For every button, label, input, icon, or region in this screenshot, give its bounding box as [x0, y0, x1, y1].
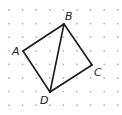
grid-dot: [90, 36, 92, 38]
grid-dot: [35, 9, 37, 11]
grid-dot: [90, 50, 92, 52]
grid-dot: [8, 104, 10, 106]
grid-dot: [63, 77, 65, 79]
grid-dot: [22, 104, 24, 106]
grid-dot: [117, 36, 119, 38]
grid-dot: [49, 36, 51, 38]
grid-dot: [103, 91, 105, 93]
grid-dot: [103, 64, 105, 66]
vertex-label-a: A: [11, 45, 20, 58]
grid-dot: [117, 50, 119, 52]
quadrilateral-diagram: A B C D: [0, 0, 122, 115]
grid-dot: [8, 36, 10, 38]
grid-dot: [35, 23, 37, 25]
grid-dot: [63, 64, 65, 66]
grid-dot: [49, 23, 51, 25]
grid-dot: [103, 9, 105, 11]
grid-dot: [90, 104, 92, 106]
vertex-label-c: C: [94, 66, 102, 79]
segment-cd: [50, 65, 92, 92]
grid-dot: [76, 36, 78, 38]
grid-dot: [117, 104, 119, 106]
grid-dot: [35, 91, 37, 93]
grid-dot: [76, 50, 78, 52]
segment-ab: [23, 24, 64, 51]
grid-dot: [76, 104, 78, 106]
segment-da: [23, 51, 50, 92]
grid-dot: [76, 23, 78, 25]
grid-dot: [49, 77, 51, 79]
grid-dot: [90, 23, 92, 25]
grid-dot: [103, 104, 105, 106]
grid-dot: [8, 64, 10, 66]
grid-dot: [103, 23, 105, 25]
grid-dot: [103, 36, 105, 38]
segment-bc: [64, 24, 92, 65]
segment-bd: [50, 24, 64, 92]
grid-dot: [22, 91, 24, 93]
grid-dot: [49, 104, 51, 106]
grid-dot: [8, 9, 10, 11]
grid-dot: [22, 9, 24, 11]
grid-dot: [90, 77, 92, 79]
grid-dot: [35, 50, 37, 52]
grid-dot: [22, 64, 24, 66]
grid-dot: [22, 23, 24, 25]
quadrilateral-edges: [23, 24, 92, 92]
grid-dot: [76, 77, 78, 79]
grid-dot: [63, 36, 65, 38]
grid-dot: [22, 36, 24, 38]
grid-dot: [8, 91, 10, 93]
vertex-label-d: D: [40, 94, 48, 107]
grid-dot: [117, 9, 119, 11]
grid-dot: [103, 77, 105, 79]
grid-dot: [35, 36, 37, 38]
grid-dot: [35, 77, 37, 79]
grid-dot: [63, 50, 65, 52]
grid-dot: [117, 77, 119, 79]
grid-dot: [63, 104, 65, 106]
grid-dot: [49, 9, 51, 11]
grid-dot: [117, 23, 119, 25]
grid-dot: [76, 9, 78, 11]
grid-dot: [49, 64, 51, 66]
grid-dot: [63, 91, 65, 93]
grid-dot: [103, 50, 105, 52]
grid-dot: [8, 77, 10, 79]
vertex-label-b: B: [65, 10, 73, 23]
grid-dot: [35, 104, 37, 106]
grid-dot: [90, 91, 92, 93]
grid-dot: [35, 64, 37, 66]
grid-dot: [90, 9, 92, 11]
grid-dot: [76, 64, 78, 66]
grid-dot: [8, 50, 10, 52]
grid-dot: [117, 91, 119, 93]
grid-dot: [8, 23, 10, 25]
grid-dot: [49, 50, 51, 52]
grid-dot: [22, 77, 24, 79]
grid-dot: [117, 64, 119, 66]
grid-dot: [76, 91, 78, 93]
